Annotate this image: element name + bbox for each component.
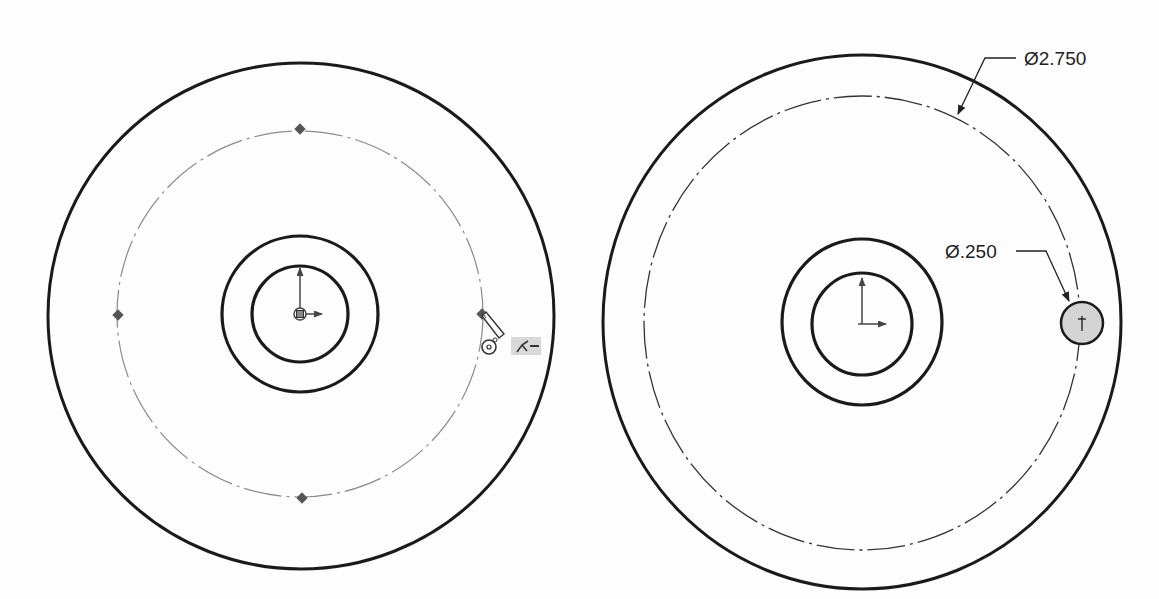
- quadrant-point-bottom[interactable]: [296, 492, 307, 503]
- hole[interactable]: [1061, 302, 1103, 344]
- bolt-circle-dimension-label: Ø2.750: [1024, 48, 1086, 69]
- origin-icon: [858, 278, 886, 324]
- hole-dimension-label: Ø.250: [945, 241, 997, 262]
- left-view: [48, 63, 554, 569]
- quadrant-point-left[interactable]: [112, 309, 123, 320]
- coincident-relation-icon: [511, 337, 541, 355]
- bolt-circle-dimension[interactable]: Ø2.750: [958, 48, 1086, 114]
- concentric-relation-icon: [482, 338, 497, 354]
- hole-dimension[interactable]: Ø.250: [945, 241, 1069, 301]
- pencil-cursor-icon: [482, 312, 504, 338]
- right-view: Ø2.750 Ø.250: [603, 48, 1121, 589]
- drawing-canvas: Ø2.750 Ø.250: [0, 0, 1159, 599]
- origin-icon: [294, 268, 322, 320]
- quadrant-point-top[interactable]: [294, 123, 305, 134]
